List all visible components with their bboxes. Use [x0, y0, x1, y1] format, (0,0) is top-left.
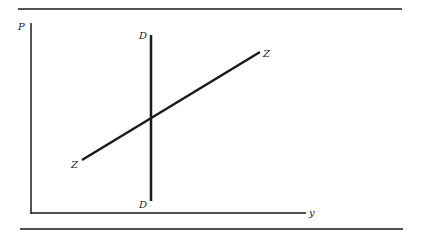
diagram-canvas: P y D D Z Z [0, 0, 422, 232]
curve-z-label-end: Z [262, 48, 271, 59]
axis-label-y: y [308, 207, 315, 218]
curve-d-label-bottom: D [138, 199, 147, 210]
axis-label-p: P [17, 21, 25, 32]
curve-z-label-start: Z [70, 159, 79, 170]
curve-d-label-top: D [138, 30, 147, 41]
curve-z [82, 52, 260, 160]
